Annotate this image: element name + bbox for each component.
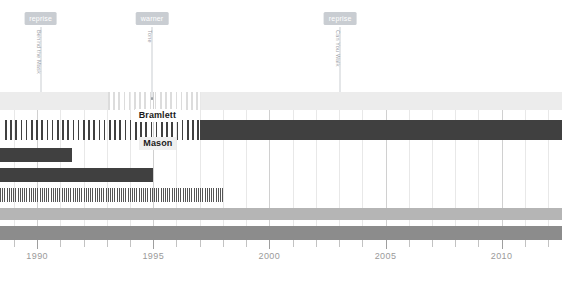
axis-tick-minor (130, 240, 131, 247)
bar-label: Bramlett (135, 109, 180, 122)
axis-tick-minor (223, 240, 224, 247)
annotation-label-tag: reprise (324, 12, 357, 25)
chart-canvas: repriseBehind the MaskwarnerTonerepriseC… (0, 0, 562, 285)
bar-row[interactable] (0, 168, 562, 182)
axis-tick-minor (478, 240, 479, 247)
bar-row[interactable] (0, 226, 562, 240)
axis-tick-minor (107, 240, 108, 247)
bar-row[interactable] (0, 188, 562, 202)
bar-segment-solid (200, 120, 562, 140)
axis-tick-minor (293, 240, 294, 247)
axis-tick-label: 2000 (259, 251, 281, 261)
axis-tick-minor (525, 240, 526, 247)
x-axis: 19901995200020052010 (0, 240, 562, 285)
bar-segment-solid (0, 226, 562, 240)
bar-segment-dashed (0, 188, 223, 202)
bar-label: Mason (139, 137, 176, 150)
axis-tick-minor (409, 240, 410, 247)
bar-segment-solid (0, 148, 72, 162)
axis-tick-minor (362, 240, 363, 247)
bar-row[interactable] (0, 148, 562, 162)
bar-row[interactable] (0, 92, 562, 110)
bar-segment-solid (0, 168, 153, 182)
axis-tick-major (269, 240, 270, 249)
axis-tick-minor (60, 240, 61, 247)
axis-tick-minor (455, 240, 456, 247)
bar-segment-dashed (108, 92, 201, 110)
axis-tick-label: 1990 (26, 251, 48, 261)
axis-tick-major (386, 240, 387, 249)
axis-tick-minor (432, 240, 433, 247)
axis-tick-minor (548, 240, 549, 247)
axis-tick-major (37, 240, 38, 249)
axis-tick-label: 2010 (491, 251, 513, 261)
axis-tick-minor (84, 240, 85, 247)
axis-tick-minor (246, 240, 247, 247)
annotation-label-tag: reprise (24, 12, 57, 25)
annotation-label-tag: warner (136, 12, 169, 25)
axis-tick-label: 2005 (375, 251, 397, 261)
bar-row[interactable] (0, 208, 562, 220)
plot-area: BramlettMason (0, 92, 562, 240)
annotation-song-title: Behind the Mask (36, 30, 42, 74)
bar-row[interactable] (0, 120, 562, 140)
axis-tick-major (153, 240, 154, 249)
axis-tick-minor (316, 240, 317, 247)
bar-segment-solid (201, 92, 562, 110)
bar-segment-solid (0, 92, 108, 110)
axis-tick-minor (14, 240, 15, 247)
annotation-song-title: Can You Walk (335, 30, 341, 67)
axis-tick-minor (176, 240, 177, 247)
bar-segment-solid (0, 208, 562, 220)
axis-tick-minor (339, 240, 340, 247)
axis-tick-label: 1995 (142, 251, 164, 261)
annotation-song-title: Tone (147, 30, 153, 43)
axis-tick-major (502, 240, 503, 249)
axis-tick-minor (200, 240, 201, 247)
